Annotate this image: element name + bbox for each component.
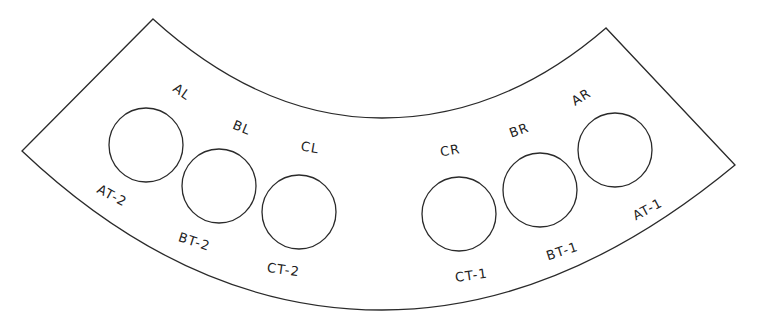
label-bt-1: BT-1 [544,239,580,263]
label-bl: BL [231,117,253,138]
label-cl: CL [300,139,321,157]
curved-plate-diagram: AL BL CL CR BR AR AT-2 BT-2 CT-2 CT-1 BT… [0,0,764,322]
label-at-1: AT-1 [630,195,665,223]
plate-outline [22,19,735,310]
hole-a-left [109,108,183,182]
hole-a-right [578,113,652,187]
label-ct-1: CT-1 [454,266,489,285]
label-bt-2: BT-2 [177,229,213,253]
label-cr: CR [439,141,461,159]
label-ct-2: CT-2 [266,260,301,279]
label-ar: AR [569,85,594,108]
hole-b-right [503,153,577,227]
hole-c-left [262,175,336,249]
label-al: AL [170,81,193,104]
hole-c-right [422,177,496,251]
label-br: BR [507,120,531,141]
label-at-2: AT-2 [95,181,130,209]
hole-b-left [182,149,256,223]
